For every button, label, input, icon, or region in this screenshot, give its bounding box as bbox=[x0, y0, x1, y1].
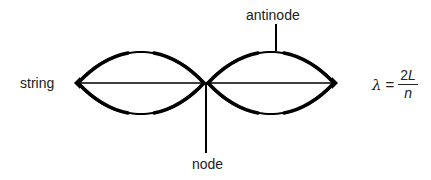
node-label: node bbox=[192, 156, 223, 172]
right-lobe-upper-stroke bbox=[208, 53, 258, 83]
right-lobe-lower-stroke bbox=[208, 83, 258, 113]
fraction-numerator: 2L bbox=[398, 68, 418, 85]
numerator-coefficient: 2 bbox=[400, 67, 408, 83]
numerator-variable: L bbox=[408, 67, 416, 83]
fraction-denominator: n bbox=[404, 85, 412, 101]
wavelength-formula: λ = 2L n bbox=[372, 68, 418, 101]
left-lobe-lower-stroke-right bbox=[154, 83, 204, 113]
wave-figure bbox=[0, 0, 431, 180]
equals-sign: = bbox=[386, 76, 395, 93]
fraction: 2L n bbox=[398, 68, 418, 101]
antinode-label: antinode bbox=[246, 7, 300, 23]
standing-wave-diagram: string antinode node λ = 2L n bbox=[0, 0, 431, 180]
lambda-symbol: λ bbox=[372, 76, 382, 94]
left-lobe-upper-stroke-right bbox=[154, 53, 204, 83]
right-lobe-upper-stroke-right bbox=[284, 53, 334, 83]
string-label: string bbox=[20, 75, 54, 91]
denominator-variable: n bbox=[404, 85, 412, 101]
left-lobe-lower-stroke bbox=[78, 83, 128, 113]
right-lobe-lower-stroke-right bbox=[284, 83, 334, 113]
left-end-cap bbox=[74, 77, 80, 89]
left-lobe-upper-stroke bbox=[78, 53, 128, 83]
right-end-cap bbox=[332, 77, 338, 89]
